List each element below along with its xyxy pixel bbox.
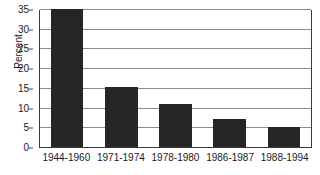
y-axis-tick-label: 25 [18, 44, 29, 54]
y-axis-tick-mark [29, 108, 33, 109]
bar-slot [203, 10, 257, 147]
bar [268, 127, 301, 148]
y-axis-tick-label: 30 [18, 25, 29, 35]
x-axis-tick-label: 1986-1987 [203, 152, 258, 163]
bar-chart: Percent 35302520151050 1944-19601971-197… [0, 0, 320, 175]
x-axis-tick-label: 1971-1974 [94, 152, 149, 163]
y-axis-tick-mark [29, 88, 33, 89]
x-axis-tick-label: 1944-1960 [39, 152, 94, 163]
bar [159, 104, 192, 147]
bar-slot [148, 10, 202, 147]
y-axis-tick-label: 20 [18, 64, 29, 74]
bar-slot [257, 10, 311, 147]
y-axis-tick-mark [29, 69, 33, 70]
bar [51, 9, 84, 147]
bar [213, 119, 246, 147]
y-axis-tick-mark [29, 128, 33, 129]
y-axis-tick-mark [29, 148, 33, 149]
bar-slot [40, 10, 94, 147]
bar [105, 87, 138, 147]
x-axis-tick-label: 1978-1980 [148, 152, 203, 163]
x-axis-tick-label: 1988-1994 [257, 152, 312, 163]
x-axis-tick-labels: 1944-19601971-19741978-19801986-19871988… [39, 152, 312, 163]
y-axis-tick-label: 15 [18, 84, 29, 94]
bar-series [40, 10, 311, 147]
y-axis-tick-mark [29, 29, 33, 30]
y-axis-tick-mark [29, 49, 33, 50]
y-axis-tick-label: 10 [18, 104, 29, 114]
y-axis-tick-label: 35 [18, 5, 29, 15]
plot-area [39, 10, 312, 148]
y-axis-tick-labels: 35302520151050 [0, 10, 33, 148]
y-axis-tick-mark [29, 10, 33, 11]
bar-slot [94, 10, 148, 147]
